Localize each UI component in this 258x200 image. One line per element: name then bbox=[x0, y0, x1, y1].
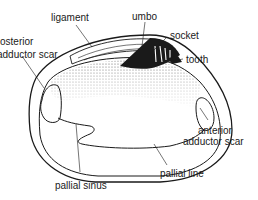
label-pallial-sinus: pallial sinus bbox=[55, 180, 107, 191]
label-anterior-line2: adductor scar bbox=[183, 136, 244, 147]
label-pallial-line: pallial line bbox=[160, 168, 204, 179]
label-posterior-line1: osterior bbox=[0, 36, 33, 47]
shell-drawing bbox=[0, 0, 258, 200]
label-anterior-line1: anterior bbox=[198, 125, 232, 136]
label-posterior-line2: adductor scar bbox=[0, 49, 58, 60]
label-socket: socket bbox=[170, 30, 199, 41]
label-umbo: umbo bbox=[132, 11, 157, 22]
label-ligament: ligament bbox=[51, 12, 89, 23]
stipple-shading bbox=[50, 60, 200, 110]
label-tooth: tooth bbox=[186, 54, 208, 65]
bivalve-diagram: ligament umbo socket tooth osterior addu… bbox=[0, 0, 258, 200]
